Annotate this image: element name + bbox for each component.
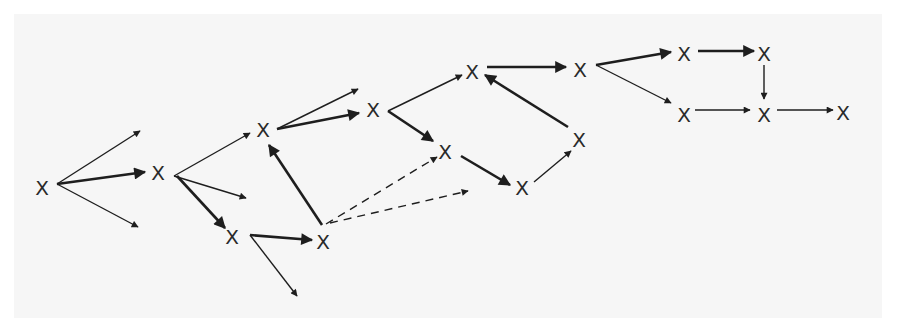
arrow-dashed (330, 191, 468, 223)
arrow-thick (57, 172, 145, 184)
arrow-thin (534, 151, 571, 182)
edge-layer (57, 51, 833, 296)
arrow-thin (388, 75, 462, 111)
node-n15: X (757, 103, 771, 127)
arrow-thick (485, 75, 568, 127)
node-n7: X (438, 140, 452, 164)
node-n5: X (316, 230, 330, 254)
arrow-thick (596, 52, 671, 65)
node-n8: X (465, 60, 479, 84)
arrow-thick (388, 111, 433, 141)
node-n14: X (677, 103, 691, 127)
arrow-thin (57, 184, 138, 227)
node-n13: X (757, 42, 771, 66)
arrow-thick (269, 145, 322, 225)
node-n1: X (35, 176, 49, 200)
arrow-thin (57, 131, 140, 184)
node-layer: XXXXXXXXXXXXXXXX (35, 42, 850, 254)
node-n3: X (256, 118, 270, 142)
arrow-thin (596, 65, 671, 103)
node-n6: X (366, 98, 380, 122)
arrow-thick (250, 235, 312, 240)
move-tree-diagram: XXXXXXXXXXXXXXXX (0, 0, 901, 329)
arrow-thin (174, 133, 250, 176)
arrow-thin (277, 89, 358, 129)
arrow-thin (174, 176, 246, 198)
arrow-thick (277, 113, 359, 129)
node-n2: X (151, 161, 165, 185)
node-n10: X (572, 128, 586, 152)
arrow-thick (461, 156, 510, 185)
node-n4: X (225, 225, 239, 249)
arrow-dashed (326, 157, 437, 224)
node-n11: X (573, 58, 587, 82)
node-n12: X (677, 42, 691, 66)
node-n9: X (515, 176, 529, 200)
node-n16: X (836, 101, 850, 125)
arrow-thin (250, 235, 297, 296)
